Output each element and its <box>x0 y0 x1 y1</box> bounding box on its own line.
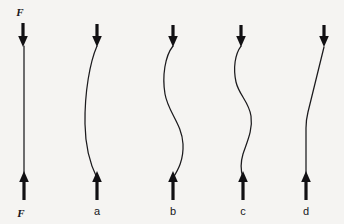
top-arrow-b <box>168 25 178 47</box>
top-arrow-reference <box>18 23 28 47</box>
beam-line-c <box>235 46 252 178</box>
column-d: d <box>301 25 329 217</box>
column-reference: F F <box>15 6 28 219</box>
case-label-a: a <box>94 205 101 217</box>
bottom-arrow-b <box>168 171 178 200</box>
top-arrow-d <box>319 25 329 47</box>
column-a: a <box>85 24 102 217</box>
beam-line-b <box>164 46 183 178</box>
bottom-arrow-reference <box>19 171 29 200</box>
force-label-bottom: F <box>16 207 25 219</box>
top-arrow-a <box>92 24 102 47</box>
top-arrow-c <box>236 25 246 47</box>
column-c: c <box>235 25 252 217</box>
case-label-d: d <box>303 205 309 217</box>
case-label-b: b <box>170 205 176 217</box>
case-label-c: c <box>240 205 246 217</box>
bottom-arrow-d <box>301 171 311 200</box>
bottom-arrow-c <box>238 171 248 200</box>
buckling-figure: F F a <box>0 0 344 224</box>
bottom-arrow-a <box>92 171 102 200</box>
beam-line-a <box>85 46 97 178</box>
column-b: b <box>164 25 183 217</box>
beam-line-d <box>306 47 324 178</box>
figure-canvas: F F a <box>0 0 344 224</box>
force-label-top: F <box>15 6 24 18</box>
